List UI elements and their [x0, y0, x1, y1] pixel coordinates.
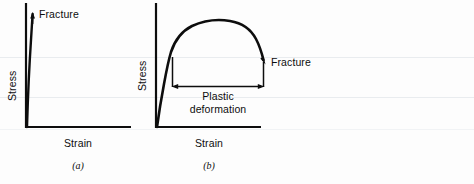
figure-root: Fracture Stress Strain (a) Fracture — [0, 0, 474, 184]
panel-b-plastic-label-line1: Plastic — [202, 90, 234, 102]
panel-b-y-axis-label: Stress — [136, 61, 148, 91]
panel-a-x-axis-label: Strain — [64, 137, 92, 149]
panel-b-sub-label: (b) — [203, 160, 215, 172]
panel-a-y-axis-label: Stress — [6, 71, 18, 101]
panel-b-x-axis-label: Strain — [195, 137, 223, 149]
panel-a-curve-brittle — [27, 14, 33, 127]
panel-a-fracture-label: Fracture — [39, 8, 79, 20]
panel-a-chart: Fracture Stress Strain (a) — [0, 0, 134, 178]
panel-b-plastic-span-arrow — [172, 84, 265, 89]
panel-b-fracture-label: Fracture — [271, 56, 311, 68]
panel-b-plastic-label-line2: deformation — [190, 103, 247, 115]
panel-b-chart: Fracture Plastic deformation Stress Stra… — [134, 0, 474, 178]
panel-a-sub-label: (a) — [72, 160, 84, 172]
figure-caption-strip — [0, 175, 474, 184]
